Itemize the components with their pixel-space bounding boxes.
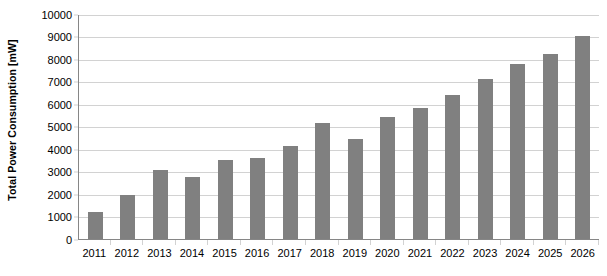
x-tick-cell	[78, 240, 111, 245]
x-tick-mark	[598, 240, 599, 245]
bar-slot	[112, 15, 145, 239]
bar-slot	[567, 15, 600, 239]
x-tick-label: 2025	[534, 247, 567, 267]
bar[interactable]	[348, 139, 363, 239]
bar-slot	[469, 15, 502, 239]
bar-slot	[242, 15, 275, 239]
y-tick-label: 5000	[48, 121, 72, 133]
x-axis-tick-marks	[78, 240, 599, 245]
bar-slot	[144, 15, 177, 239]
bar-series	[79, 15, 599, 239]
y-tick-label: 3000	[48, 166, 72, 178]
x-tick-cell	[371, 240, 404, 245]
x-tick-cell	[111, 240, 144, 245]
bar[interactable]	[445, 95, 460, 239]
bar-slot	[177, 15, 210, 239]
x-tick-label: 2018	[306, 247, 339, 267]
bar-slot	[372, 15, 405, 239]
x-tick-label: 2014	[176, 247, 209, 267]
bar-slot	[274, 15, 307, 239]
x-tick-cell	[241, 240, 274, 245]
bar[interactable]	[153, 170, 168, 239]
bar[interactable]	[510, 64, 525, 238]
bar[interactable]	[283, 146, 298, 238]
bar[interactable]	[543, 54, 558, 239]
y-tick-label: 6000	[48, 99, 72, 111]
x-tick-label: 2020	[371, 247, 404, 267]
x-tick-cell	[208, 240, 241, 245]
y-tick-label: 9000	[48, 31, 72, 43]
y-tick-label: 1000	[48, 211, 72, 223]
x-axis-tick-labels: 2011201220132014201520162017201820192020…	[78, 247, 599, 267]
bar-slot	[209, 15, 242, 239]
x-tick-label: 2022	[436, 247, 469, 267]
x-tick-label: 2021	[404, 247, 437, 267]
bar[interactable]	[478, 79, 493, 239]
x-tick-cell	[534, 240, 567, 245]
bar[interactable]	[120, 195, 135, 239]
y-tick-label: 10000	[41, 9, 72, 21]
x-tick-cell	[273, 240, 306, 245]
bar-slot	[502, 15, 535, 239]
y-tick-label: 0	[66, 234, 72, 246]
x-tick-cell	[339, 240, 372, 245]
bar[interactable]	[185, 177, 200, 239]
x-tick-cell	[143, 240, 176, 245]
y-axis-tick-labels: 0100020003000400050006000700080009000100…	[24, 0, 78, 276]
bar[interactable]	[250, 158, 265, 239]
bar-slot	[534, 15, 567, 239]
x-tick-label: 2011	[78, 247, 111, 267]
x-tick-cell	[176, 240, 209, 245]
x-tick-label: 2026	[566, 247, 599, 267]
bar-slot	[79, 15, 112, 239]
x-tick-cell	[306, 240, 339, 245]
bar[interactable]	[413, 108, 428, 239]
x-tick-label: 2019	[339, 247, 372, 267]
x-tick-label: 2013	[143, 247, 176, 267]
x-tick-label: 2024	[501, 247, 534, 267]
x-tick-label: 2016	[241, 247, 274, 267]
x-tick-cell	[501, 240, 534, 245]
x-tick-label: 2012	[111, 247, 144, 267]
x-tick-cell	[404, 240, 437, 245]
bar-slot	[404, 15, 437, 239]
bar-slot	[437, 15, 470, 239]
y-tick-label: 4000	[48, 144, 72, 156]
y-tick-label: 7000	[48, 76, 72, 88]
bar-slot	[339, 15, 372, 239]
bar-slot	[307, 15, 340, 239]
bar-chart: Total Power Consumption [mW] 01000200030…	[0, 0, 607, 276]
bar[interactable]	[88, 212, 103, 239]
x-tick-label: 2023	[469, 247, 502, 267]
bar[interactable]	[315, 123, 330, 239]
x-tick-cell	[566, 240, 599, 245]
bar[interactable]	[380, 117, 395, 239]
y-tick-label: 8000	[48, 54, 72, 66]
x-tick-label: 2017	[273, 247, 306, 267]
bar[interactable]	[218, 160, 233, 239]
plot-area	[78, 15, 599, 240]
y-tick-label: 2000	[48, 189, 72, 201]
x-tick-cell	[436, 240, 469, 245]
x-tick-label: 2015	[208, 247, 241, 267]
y-axis-title-text: Total Power Consumption [mW]	[6, 39, 18, 200]
x-tick-cell	[469, 240, 502, 245]
bar[interactable]	[575, 36, 590, 239]
y-axis-title: Total Power Consumption [mW]	[0, 0, 24, 240]
